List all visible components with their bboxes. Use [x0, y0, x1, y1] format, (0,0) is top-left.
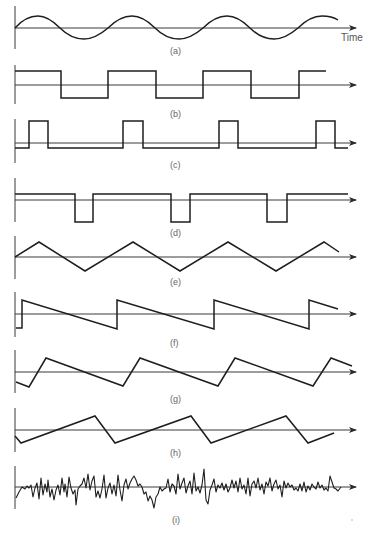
panel-label-b: (b) — [170, 109, 181, 119]
panel-label-a: (a) — [170, 46, 181, 56]
panel-label-h: (h) — [170, 448, 181, 458]
panel-label-e: (e) — [170, 277, 181, 287]
pulse-train-wave — [15, 194, 348, 222]
panel-c-pulse-train: (c) — [15, 119, 356, 170]
panel-label-d: (d) — [170, 228, 181, 238]
panel-a-sine: Time (a) — [15, 6, 363, 56]
pulse-train-wave — [15, 121, 348, 148]
scan-speck — [351, 519, 353, 521]
panel-label-i: (i) — [172, 515, 180, 525]
panel-b-square: (b) — [15, 65, 356, 119]
panel-e-triangle: (e) — [15, 236, 356, 287]
time-axis-label: Time — [341, 32, 363, 43]
panel-label-g: (g) — [170, 394, 181, 404]
panel-label-c: (c) — [170, 160, 181, 170]
waveform-figure: Time (a) (b) (c) (d) (e) (f) — [0, 0, 371, 534]
panel-h-asym-sawtooth: (h) — [15, 408, 356, 458]
panel-d-pulse-train: (d) — [15, 178, 356, 238]
panel-f-sawtooth: (f) — [15, 292, 356, 348]
noise-wave — [16, 469, 341, 508]
panel-i-noise: (i) — [15, 466, 356, 525]
panel-g-asym-sawtooth: (g) — [15, 350, 356, 404]
panel-label-f: (f) — [170, 338, 179, 348]
